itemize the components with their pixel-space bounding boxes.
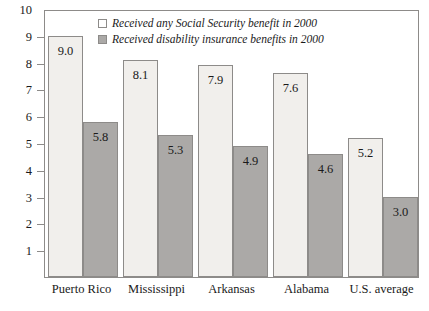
bar: 4.9 [233, 146, 268, 277]
bar: 8.1 [123, 60, 158, 277]
bar-value-label: 5.2 [349, 146, 382, 161]
y-tick-mark [37, 117, 44, 118]
y-tick-label: 3 [26, 189, 32, 207]
bar-value-label: 4.6 [309, 162, 342, 177]
bar-value-label: 7.9 [199, 73, 232, 88]
bar: 5.3 [158, 135, 193, 277]
bar-value-label: 4.9 [234, 154, 267, 169]
legend: Received any Social Security benefit in … [98, 16, 324, 48]
y-tick-label: 7 [26, 81, 32, 99]
category-label: Puerto Rico [44, 282, 119, 297]
bar: 4.6 [308, 154, 343, 277]
legend-label: Received any Social Security benefit in … [112, 17, 317, 30]
y-tick-mark [37, 251, 44, 252]
y-tick-label: 8 [26, 55, 32, 73]
bar: 7.6 [273, 73, 308, 277]
y-tick-label: 2 [26, 215, 32, 233]
bar-value-label: 5.3 [159, 143, 192, 158]
y-tick-mark [37, 144, 44, 145]
bar-value-label: 7.6 [274, 81, 307, 96]
bar: 3.0 [383, 197, 418, 277]
legend-swatch-icon [98, 19, 107, 28]
y-tick-mark [37, 224, 44, 225]
legend-label: Received disability insurance benefits i… [112, 33, 324, 46]
bar: 5.8 [83, 122, 118, 277]
y-tick-mark [37, 37, 44, 38]
y-tick-label: 5 [26, 135, 32, 153]
bar-chart: 10987654321 9.05.88.15.37.94.97.64.65.23… [0, 0, 429, 311]
y-tick-mark [37, 64, 44, 65]
bar-value-label: 3.0 [384, 205, 417, 220]
y-tick-mark [37, 198, 44, 199]
plot-area: 9.05.88.15.37.94.97.64.65.23.0 [44, 10, 419, 278]
category-label: Mississippi [119, 282, 194, 297]
bar: 5.2 [348, 138, 383, 277]
y-tick-label: 1 [26, 242, 32, 260]
bar-value-label: 5.8 [84, 130, 117, 145]
category-label: Alabama [269, 282, 344, 297]
y-tick-label: 10 [20, 1, 33, 19]
bar: 7.9 [198, 65, 233, 277]
category-label: U.S. average [344, 282, 419, 297]
legend-swatch-icon [98, 35, 107, 44]
y-tick-label: 4 [26, 162, 32, 180]
bar-value-label: 9.0 [49, 44, 82, 59]
y-tick-mark [37, 90, 44, 91]
category-label: Arkansas [194, 282, 269, 297]
y-tick-label: 9 [26, 28, 32, 46]
bar-value-label: 8.1 [124, 68, 157, 83]
y-tick-mark [37, 171, 44, 172]
bar: 9.0 [48, 36, 83, 277]
y-tick-label: 6 [26, 108, 32, 126]
legend-item: Received disability insurance benefits i… [98, 32, 324, 46]
legend-item: Received any Social Security benefit in … [98, 16, 324, 30]
